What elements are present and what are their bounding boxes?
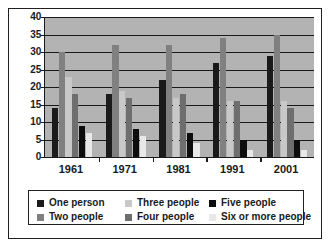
- legend-item[interactable]: One person: [37, 198, 105, 208]
- bar: [193, 143, 199, 157]
- chart-frame: 0510152025303540 19611971198119912001 On…: [8, 8, 322, 239]
- x-axis-tick-mark: [153, 157, 155, 162]
- legend-label: Five people: [221, 198, 276, 208]
- x-axis-tick-mark: [206, 157, 208, 162]
- bar: [213, 63, 219, 158]
- bar: [301, 150, 307, 157]
- x-axis-tick-mark: [99, 157, 101, 162]
- bar: [72, 94, 78, 157]
- chart-plot-area: 0510152025303540 19611971198119912001: [19, 17, 313, 183]
- y-axis: 0510152025303540: [19, 17, 41, 163]
- bar: [220, 38, 226, 157]
- legend-swatch-icon: [37, 200, 44, 207]
- bar: [227, 101, 233, 157]
- x-axis-label: 1991: [220, 163, 244, 175]
- bar: [126, 98, 132, 158]
- legend-item[interactable]: Two people: [37, 212, 103, 222]
- legend-label: One person: [49, 198, 105, 208]
- bar: [240, 140, 246, 158]
- y-axis-tick-label: 10: [19, 117, 41, 127]
- legend-swatch-icon: [125, 214, 132, 221]
- chart-figure: 0510152025303540 19611971198119912001 On…: [0, 0, 330, 247]
- legend-item[interactable]: Six or more people: [209, 212, 311, 222]
- chart-legend: One personTwo peopleThree peopleFour peo…: [28, 190, 304, 225]
- x-axis-label: 1961: [59, 163, 83, 175]
- y-axis-tick-label: 0: [19, 152, 41, 162]
- bar: [79, 126, 85, 158]
- bar-group: [153, 17, 207, 157]
- legend-swatch-icon: [209, 200, 216, 207]
- bar: [106, 94, 112, 157]
- x-axis-label: 1971: [112, 163, 136, 175]
- legend-label: Two people: [49, 212, 103, 222]
- x-axis-label: 1981: [166, 163, 190, 175]
- legend-swatch-icon: [209, 214, 216, 221]
- y-axis-tick-label: 35: [19, 30, 41, 40]
- y-axis-tick-label: 40: [19, 12, 41, 22]
- bar: [119, 91, 125, 158]
- bar-group: [99, 17, 153, 157]
- legend-swatch-icon: [37, 214, 44, 221]
- bar: [59, 52, 65, 157]
- bar-group: [206, 17, 260, 157]
- legend-item[interactable]: Three people: [125, 198, 199, 208]
- bar: [112, 45, 118, 157]
- legend-label: Six or more people: [221, 212, 311, 222]
- bar: [187, 133, 193, 158]
- bar: [65, 77, 71, 158]
- legend-item[interactable]: Four people: [125, 212, 194, 222]
- bar: [133, 129, 139, 157]
- bar: [52, 108, 58, 157]
- y-axis-tick-label: 5: [19, 135, 41, 145]
- bar: [274, 35, 280, 158]
- bar: [180, 94, 186, 157]
- bar: [173, 98, 179, 158]
- y-axis-tick-mark: [41, 157, 45, 158]
- x-axis-tick-mark: [260, 157, 262, 162]
- y-axis-tick-label: 30: [19, 47, 41, 57]
- x-axis-label: 2001: [274, 163, 298, 175]
- bar: [159, 80, 165, 157]
- bar: [234, 101, 240, 157]
- bar-group: [45, 17, 99, 157]
- plot-region: [44, 17, 314, 158]
- y-axis-tick-label: 20: [19, 82, 41, 92]
- plot-inner: [45, 17, 314, 157]
- bar: [86, 133, 92, 158]
- bar: [294, 140, 300, 158]
- legend-label: Three people: [137, 198, 199, 208]
- bar: [247, 150, 253, 157]
- bar: [281, 101, 287, 157]
- bar: [287, 108, 293, 157]
- legend-label: Four people: [137, 212, 194, 222]
- y-axis-tick-label: 25: [19, 65, 41, 75]
- bar: [166, 45, 172, 157]
- bar-group: [260, 17, 314, 157]
- x-axis-labels: 19611971198119912001: [44, 163, 313, 181]
- bar: [140, 136, 146, 157]
- bar: [267, 56, 273, 158]
- y-axis-tick-label: 15: [19, 100, 41, 110]
- legend-swatch-icon: [125, 200, 132, 207]
- legend-item[interactable]: Five people: [209, 198, 276, 208]
